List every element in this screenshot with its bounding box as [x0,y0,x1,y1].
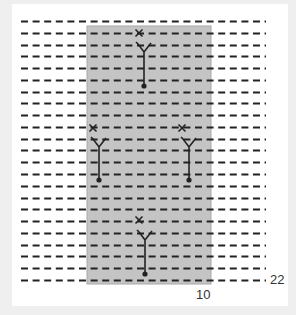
row-label: 22 [270,273,284,286]
knitting-diagram [0,0,296,315]
dot-icon [142,271,147,276]
dot-icon [141,83,146,88]
dot-icon [186,177,191,182]
column-label: 10 [196,288,210,301]
dot-icon [96,177,101,182]
